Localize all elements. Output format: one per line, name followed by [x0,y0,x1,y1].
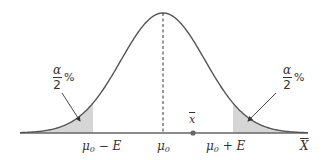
sample-mean-label: x [189,114,195,125]
subscript: 0 [165,145,170,154]
left-critical-label: μ0 − E [82,140,121,154]
percent-sign: % [294,71,304,84]
left-tail-arrow [62,93,80,121]
mu-symbol: μ [206,139,214,153]
normal-curve-diagram [0,0,325,160]
left-alpha-half-label: α 2 % [52,64,75,91]
minus-e: − E [95,139,121,153]
mu-symbol: μ [82,139,90,153]
mean-label: μ0 [157,140,170,154]
plus-e: + E [219,139,245,153]
right-alpha-half-label: α 2 % [282,64,305,91]
sample-mean-dot [190,130,195,135]
denominator: 2 [53,78,61,91]
alpha-numerator: α [282,64,292,77]
percent-sign: % [64,71,74,84]
axis-variable-label: X [300,140,309,152]
mu-symbol: μ [157,139,165,153]
denominator: 2 [283,78,291,91]
right-tail-arrow [248,93,276,121]
alpha-numerator: α [52,64,62,77]
right-critical-label: μ0 + E [206,140,245,154]
